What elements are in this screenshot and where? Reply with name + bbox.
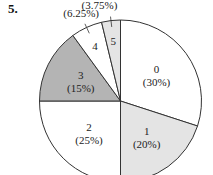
pie-chart: 0(30%)1(20%)2(25%)3(15%)4(6.25%)5(3.75%): [0, 0, 213, 175]
svg-text:(25%): (25%): [75, 134, 103, 147]
svg-text:0: 0: [154, 63, 160, 75]
svg-text:3: 3: [78, 69, 84, 81]
svg-text:(20%): (20%): [133, 138, 161, 151]
svg-text:(3.75%): (3.75%): [82, 0, 118, 12]
svg-text:5: 5: [111, 35, 117, 47]
svg-text:1: 1: [144, 125, 150, 137]
svg-text:2: 2: [86, 121, 92, 133]
svg-text:(30%): (30%): [143, 76, 171, 89]
svg-text:4: 4: [92, 40, 98, 52]
svg-text:(15%): (15%): [67, 82, 95, 95]
